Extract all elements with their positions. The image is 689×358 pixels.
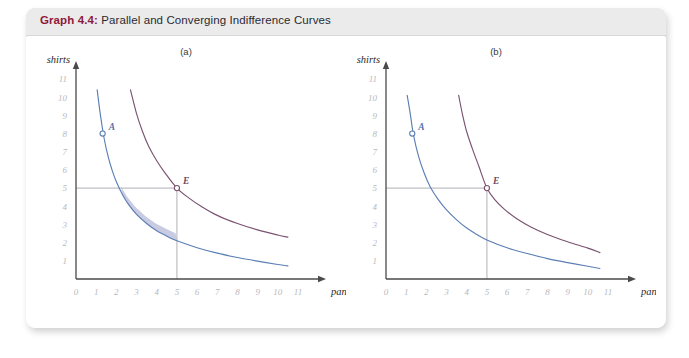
y-tick-label: 11: [59, 74, 67, 84]
x-tick-label: 6: [195, 287, 200, 297]
y-tick-label: 6: [63, 165, 68, 175]
y-tick-label: 2: [373, 238, 378, 248]
x-axis-arrow: [628, 276, 636, 282]
panel-b-plot: 012345678910111234567891011shirtspantsAE: [336, 37, 656, 328]
data-point-marker-a: [100, 131, 105, 136]
data-point-label-e: E: [182, 176, 189, 186]
y-tick-label: 2: [63, 238, 68, 248]
x-tick-label: 1: [94, 287, 99, 297]
y-tick-label: 5: [373, 183, 378, 193]
x-tick-label: 9: [565, 287, 570, 297]
x-tick-label: 2: [424, 287, 429, 297]
indifference-curve: [130, 90, 287, 237]
x-tick-label: 5: [175, 287, 180, 297]
y-tick-label: 5: [63, 183, 68, 193]
y-tick-label: 8: [373, 129, 378, 139]
x-tick-label: 8: [545, 287, 550, 297]
data-point-label-e: E: [492, 176, 499, 186]
y-tick-label: 1: [63, 256, 68, 266]
figure-title-bar: Graph 4.4: Parallel and Converging Indif…: [26, 8, 666, 36]
data-point-marker-e: [484, 185, 489, 190]
x-tick-label: 8: [235, 287, 240, 297]
y-tick-label: 10: [58, 93, 68, 103]
x-tick-label: 7: [525, 287, 530, 297]
x-tick-label: 0: [74, 287, 79, 297]
y-axis-label: shirts: [47, 54, 70, 65]
panel-a: (a) 012345678910111234567891011shirtspan…: [26, 37, 346, 328]
y-axis-arrow: [383, 61, 389, 69]
x-tick-label: 10: [273, 287, 283, 297]
data-point-marker-a: [410, 131, 415, 136]
y-tick-label: 4: [63, 202, 68, 212]
y-tick-label: 3: [62, 220, 68, 230]
y-axis-arrow: [73, 61, 79, 69]
data-point-label-a: A: [417, 122, 424, 132]
y-tick-label: 3: [372, 220, 378, 230]
x-axis-label: pants: [640, 286, 656, 297]
y-tick-label: 7: [373, 147, 378, 157]
figure-title-text: Parallel and Converging Indifference Cur…: [98, 14, 331, 26]
x-tick-label: 1: [404, 287, 409, 297]
panel-a-plot: 012345678910111234567891011shirtspantsAE: [26, 37, 346, 328]
x-tick-label: 4: [464, 287, 469, 297]
shaded-band: [121, 187, 177, 241]
x-tick-label: 4: [154, 287, 159, 297]
y-tick-label: 9: [373, 111, 378, 121]
figure-title: Graph 4.4: Parallel and Converging Indif…: [40, 14, 331, 26]
indifference-curve: [97, 90, 288, 266]
data-point-marker-e: [174, 185, 179, 190]
figure-body: (a) 012345678910111234567891011shirtspan…: [26, 37, 666, 328]
x-tick-label: 11: [604, 287, 612, 297]
y-tick-label: 9: [63, 111, 68, 121]
x-tick-label: 5: [485, 287, 490, 297]
x-tick-label: 3: [443, 287, 449, 297]
indifference-curve: [459, 95, 600, 252]
y-tick-label: 11: [369, 74, 377, 84]
x-tick-label: 6: [505, 287, 510, 297]
x-tick-label: 0: [384, 287, 389, 297]
figure-card: Graph 4.4: Parallel and Converging Indif…: [26, 8, 666, 328]
y-tick-label: 6: [373, 165, 378, 175]
y-tick-label: 1: [373, 256, 378, 266]
x-tick-label: 10: [583, 287, 593, 297]
panel-b: (b) 012345678910111234567891011shirtspan…: [336, 37, 656, 328]
y-tick-label: 8: [63, 129, 68, 139]
x-tick-label: 7: [215, 287, 220, 297]
x-tick-label: 3: [133, 287, 139, 297]
x-tick-label: 2: [114, 287, 119, 297]
x-axis-arrow: [318, 276, 326, 282]
figure-page: Graph 4.4: Parallel and Converging Indif…: [0, 0, 689, 358]
x-tick-label: 11: [294, 287, 302, 297]
y-tick-label: 7: [63, 147, 68, 157]
figure-number-label: Graph 4.4:: [40, 14, 98, 26]
y-axis-label: shirts: [357, 54, 380, 65]
x-tick-label: 9: [255, 287, 260, 297]
data-point-label-a: A: [108, 122, 115, 132]
y-tick-label: 10: [368, 93, 378, 103]
y-tick-label: 4: [373, 202, 378, 212]
